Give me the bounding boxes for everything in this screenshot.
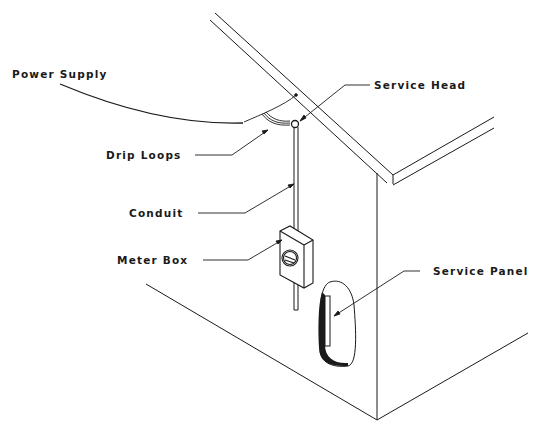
power-supply-wire: [60, 84, 243, 123]
label-drip-loops: Drip Loops: [106, 149, 182, 161]
service-entrance-diagram: [0, 0, 535, 436]
roof-edge: [210, 13, 494, 185]
drip-loops: [262, 112, 290, 125]
label-meter-box: Meter Box: [117, 254, 188, 266]
service-panel: [318, 281, 355, 366]
label-service-panel: Service Panel: [433, 265, 529, 277]
meter-box: [280, 226, 313, 288]
service-head: [292, 121, 299, 128]
label-power-supply: Power Supply: [12, 68, 107, 80]
label-conduit: Conduit: [129, 207, 183, 219]
label-service-head: Service Head: [374, 79, 466, 91]
